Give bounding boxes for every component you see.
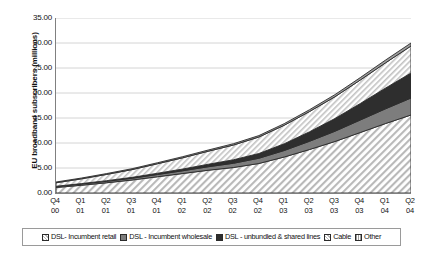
x-tick-year: 04 [392,206,423,216]
y-axis-tick-label: 20.00 [14,89,52,97]
chart-legend: DSL- Incumbent retailDSL - Incumbent who… [22,228,401,246]
x-axis-tick-labels: Q400Q101Q201Q301Q401Q102Q202Q302Q402Q103… [0,196,423,222]
y-axis-tick-label: 35.00 [14,14,52,22]
y-axis-tick-label: 25.00 [14,64,52,72]
legend-label: DSL - unbundled & shared lines [225,233,320,241]
legend-label: Cable [333,233,351,241]
legend-label: DSL - Incumbent wholesale [129,233,212,241]
plot-svg [56,18,411,193]
dark-swatch [216,234,223,241]
legend-item[interactable]: DSL - unbundled & shared lines [216,233,320,241]
y-axis-tick-label: 30.00 [14,39,52,47]
legend-label: DSL- Incumbent retail [51,233,116,241]
legend-item[interactable]: Other [355,233,381,241]
gray-swatch [120,234,127,241]
x-axis-tick-label: Q204 [392,196,423,215]
plot-area [55,18,411,194]
hatch-light-swatch [42,234,49,241]
legend-item[interactable]: DSL- Incumbent retail [42,233,116,241]
gray-light-swatch [355,234,362,241]
y-axis-tick-label: 5.00 [14,164,52,172]
y-axis-tick-label: 15.00 [14,114,52,122]
legend-label: Other [364,233,381,241]
hatch-light-swatch [324,234,331,241]
y-axis-tick-label: 10.00 [14,139,52,147]
stacked-area-chart: EU broadband subscribers (millions) 0.00… [0,0,423,257]
legend-item[interactable]: DSL - Incumbent wholesale [120,233,212,241]
x-tick-quarter: Q2 [392,196,423,206]
legend-item[interactable]: Cable [324,233,351,241]
